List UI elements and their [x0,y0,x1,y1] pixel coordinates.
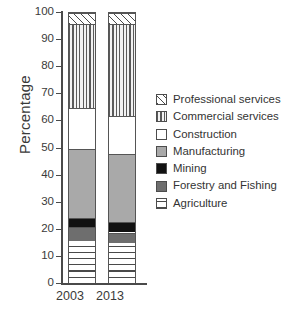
dark-gray-swatch [156,181,167,192]
bar-segment-professional-services [109,13,135,24]
legend-label: Commercial services [173,111,279,122]
y-tick-label-60: 60 [14,114,54,126]
y-tick-0 [56,283,62,284]
bar-segment-agriculture [109,243,135,284]
bar-segment-mining [109,222,135,233]
bar-segment-commercial-services [109,24,135,116]
bar-segment-construction [109,116,135,154]
white-swatch [156,129,167,140]
y-tick-label-10: 10 [14,250,54,262]
legend-label: Agriculture [173,198,227,209]
legend-item-commercial-services: Commercial services [156,108,284,125]
legend-item-construction: Construction [156,126,284,143]
y-tick-label-50: 50 [14,142,54,154]
bar-segment-manufacturing [109,154,135,222]
legend-item-forestry-and-fishing: Forestry and Fishing [156,177,284,194]
legend-label: Mining [173,163,207,174]
bar-segment-manufacturing [69,149,95,218]
legend-label: Forestry and Fishing [173,180,277,191]
bar-2003 [68,12,96,283]
legend-label: Construction [173,129,237,140]
legend-item-professional-services: Professional services [156,91,284,108]
y-tick-label-100: 100 [14,6,54,18]
bar-segment-forestry-and-fishing [109,233,135,244]
y-tick-label-30: 30 [14,196,54,208]
black-swatch [156,163,167,174]
diagonal-hatch-swatch [156,94,167,105]
stacked-bar-chart: Percentage 1009080706050403020100 2003 2… [0,0,287,313]
bar-segment-professional-services [69,13,95,24]
y-tick-label-20: 20 [14,223,54,235]
bar-segment-agriculture [69,241,95,284]
y-tick-label-40: 40 [14,169,54,181]
legend-item-agriculture: Agriculture [156,195,284,212]
y-tick-label-90: 90 [14,33,54,45]
legend-label: Manufacturing [173,146,245,157]
y-tick-label-80: 80 [14,60,54,72]
vertical-stripes-swatch [156,111,167,122]
bar-segment-forestry-and-fishing [69,227,95,241]
light-gray-swatch [156,146,167,157]
y-tick-label-0: 0 [14,277,54,289]
chart-legend: Professional servicesCommercial services… [156,91,284,212]
legend-label: Professional services [173,94,281,105]
horizontal-stripes-swatch [156,198,167,209]
bar-2013 [108,12,136,283]
plot-area [62,12,146,283]
bar-segment-mining [69,218,95,227]
x-tick-label-2013: 2013 [87,289,133,303]
legend-item-mining: Mining [156,160,284,177]
bar-segment-commercial-services [69,24,95,108]
y-tick-label-70: 70 [14,87,54,99]
bar-segment-construction [69,108,95,149]
legend-item-manufacturing: Manufacturing [156,143,284,160]
